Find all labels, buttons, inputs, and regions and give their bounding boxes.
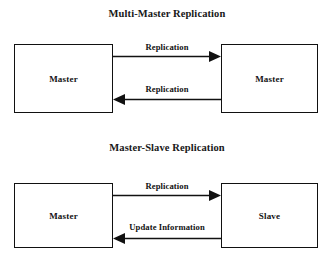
edge-connectors [0,0,334,134]
edge-connectors [0,134,334,268]
arrow-head-right [209,51,221,62]
arrow-head-right [209,190,221,201]
arrow-head-left [113,233,125,244]
diagram-multi-master: Multi-Master Replication Master Master R… [0,0,334,134]
diagram-master-slave: Master-Slave Replication Master Slave Re… [0,134,334,268]
arrow-head-left [113,94,125,105]
